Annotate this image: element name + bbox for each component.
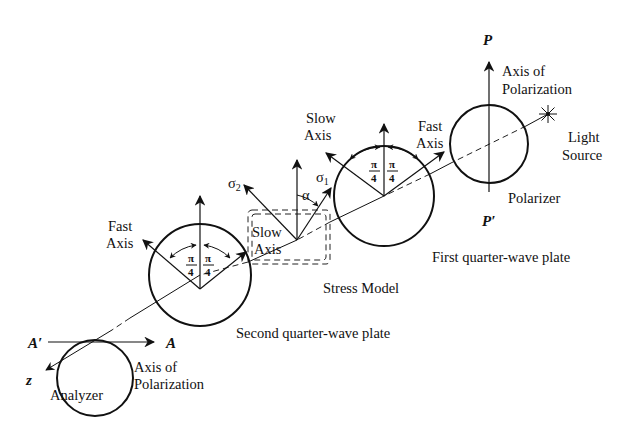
- sigma-1-label: σ1: [316, 169, 329, 187]
- sigma-2-label: σ2: [228, 175, 241, 193]
- alpha-label: α: [302, 187, 310, 203]
- first-qwp-slow-axis-label-2: Axis: [304, 127, 332, 143]
- first-qwp-angle-left-num: π: [371, 158, 377, 170]
- first-qwp-angle-right-den: 4: [389, 172, 395, 184]
- second-qwp-angle-left-num: π: [188, 252, 194, 264]
- first-qwp-fast-axis-label-2: Axis: [416, 135, 444, 151]
- second-qwp-fast-axis-label-1: Fast: [108, 218, 132, 234]
- stress-model-label: Stress Model: [323, 280, 399, 296]
- polarizer-axis-top-label: P: [483, 32, 493, 48]
- first-qwp-slow-axis-label-1: Slow: [306, 110, 336, 126]
- analyzer-label: Analyzer: [50, 387, 103, 403]
- stress-slow-axis-label-1: Slow: [252, 224, 282, 240]
- analyzer-axis-left-label: A′: [27, 335, 42, 351]
- polarizer-axis-label-1: Axis of: [502, 63, 545, 79]
- second-qwp-label: Second quarter-wave plate: [236, 325, 390, 341]
- second-qwp-angle-right-num: π: [205, 252, 211, 264]
- analyzer-axis-right-label: A: [165, 335, 176, 351]
- light-source-label-2: Source: [562, 147, 602, 163]
- second-qwp-fast-axis-label-2: Axis: [106, 235, 134, 251]
- second-quarter-wave-plate: [143, 196, 251, 326]
- second-qwp-angle-left-den: 4: [188, 266, 194, 278]
- analyzer-axis-label-2: Polarization: [134, 376, 205, 392]
- light-source-icon: [539, 105, 557, 123]
- first-qwp-fast-axis-label-1: Fast: [418, 118, 442, 134]
- stress-slow-axis-label-2: Axis: [254, 241, 282, 257]
- z-axis-label: z: [25, 372, 32, 388]
- polarizer-axis-label-2: Polarization: [502, 81, 573, 97]
- polariscope-diagram: Light Source P P′ Axis of Polarization P…: [0, 0, 632, 423]
- first-qwp-angle-left-den: 4: [371, 172, 377, 184]
- analyzer-axis-label-1: Axis of: [134, 359, 177, 375]
- light-source-label-1: Light: [568, 129, 599, 145]
- analyzer-disk: [57, 340, 133, 416]
- first-qwp-label: First quarter-wave plate: [432, 249, 570, 265]
- polarizer-axis-bottom-label: P′: [482, 213, 495, 229]
- first-qwp-angle-right-num: π: [389, 158, 395, 170]
- polarizer-label: Polarizer: [508, 190, 561, 206]
- second-qwp-angle-right-den: 4: [205, 266, 211, 278]
